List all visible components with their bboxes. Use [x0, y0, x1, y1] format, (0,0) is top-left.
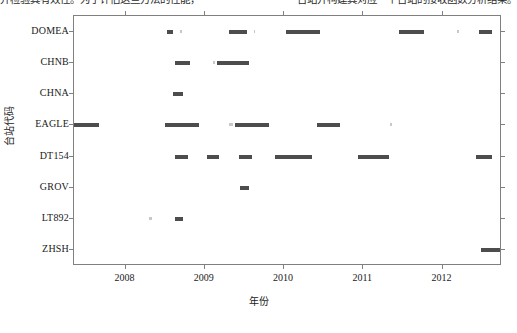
x-tick-mark-top [283, 11, 284, 15]
data-segment-eagle [390, 123, 392, 126]
y-tick-mark-right [501, 156, 505, 157]
data-segment-domea [254, 30, 256, 33]
data-segment-domea [479, 30, 492, 34]
data-segment-dt154 [476, 155, 493, 159]
y-tick-label-eagle: EAGLE [7, 119, 69, 129]
y-tick-mark-right [501, 93, 505, 94]
data-segment-domea [167, 30, 173, 34]
top-caption-left-text: 并检验其有效性。为了评估这些方法的性能， [0, 0, 200, 5]
x-tick-mark [362, 265, 363, 269]
data-segment-lt892 [149, 217, 151, 220]
y-tick-label-domea: DOMEA [7, 26, 69, 36]
x-axis-title: 年份 [0, 293, 517, 308]
x-tick-mark [125, 265, 126, 269]
data-segment-domea [180, 30, 182, 33]
data-segment-dt154 [275, 155, 312, 159]
y-tick-label-chnb: CHNB [7, 57, 69, 67]
data-segment-domea [286, 30, 320, 34]
data-segment-eagle [165, 123, 199, 127]
data-segment-zhsh [481, 248, 500, 252]
plot-area [73, 15, 501, 265]
x-tick-label-2010: 2010 [259, 272, 307, 283]
x-tick-label-2011: 2011 [338, 272, 386, 283]
x-tick-mark-top [442, 11, 443, 15]
y-tick-label-chna: CHNA [7, 88, 69, 98]
data-segment-domea [399, 30, 424, 34]
data-segment-dt154 [358, 155, 390, 159]
x-tick-mark [442, 265, 443, 269]
y-tick-label-lt892: LT892 [7, 213, 69, 223]
y-tick-label-grov: GROV [7, 182, 69, 192]
y-tick-label-zhsh: ZHSH [7, 244, 69, 254]
x-tick-label-2008: 2008 [101, 272, 149, 283]
figure-container: 台站并构建其对应一个台站的接收函数分析结果。 并检验其有效性。为了评估这些方法的… [0, 0, 517, 333]
x-tick-label-2012: 2012 [418, 272, 466, 283]
y-tick-mark-right [501, 249, 505, 250]
y-tick-mark-right [501, 218, 505, 219]
x-tick-mark-top [362, 11, 363, 15]
data-segment-chnb [217, 61, 249, 65]
y-tick-label-dt154: DT154 [7, 151, 69, 161]
data-segment-dt154 [207, 155, 219, 159]
data-segment-dt154 [239, 155, 252, 159]
data-segment-chnb [213, 61, 215, 64]
data-segment-grov [240, 186, 249, 190]
data-segment-eagle [317, 123, 339, 127]
data-segment-domea [229, 30, 247, 34]
x-tick-label-2009: 2009 [180, 272, 228, 283]
y-tick-mark-right [501, 62, 505, 63]
x-tick-mark [283, 265, 284, 269]
top-clipped-caption: 台站并构建其对应一个台站的接收函数分析结果。 并检验其有效性。为了评估这些方法的… [0, 0, 517, 6]
y-tick-mark-right [501, 187, 505, 188]
top-caption-right-text: 台站并构建其对应一个台站的接收函数分析结果。 [297, 0, 517, 6]
x-tick-mark [204, 265, 205, 269]
y-tick-mark-right [501, 31, 505, 32]
data-segment-lt892 [175, 217, 184, 221]
data-segment-chna [173, 92, 183, 96]
data-segment-chnb [175, 61, 190, 65]
x-tick-mark-top [125, 11, 126, 15]
y-tick-mark-right [501, 124, 505, 125]
data-segment-dt154 [175, 155, 188, 159]
data-segment-eagle [74, 123, 99, 127]
x-tick-mark-top [204, 11, 205, 15]
data-segment-domea [457, 30, 459, 33]
data-segment-eagle [235, 123, 269, 127]
data-segment-eagle [229, 123, 232, 126]
